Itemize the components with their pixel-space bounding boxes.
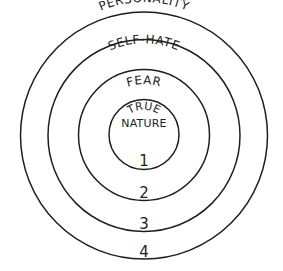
number-2: 2 — [139, 184, 149, 202]
label-nature: NATURE — [121, 117, 166, 130]
number-3: 3 — [139, 215, 149, 233]
ring-3-self-hate — [48, 40, 240, 232]
number-4: 4 — [139, 243, 149, 261]
label-fear: FEAR — [125, 73, 163, 89]
number-1: 1 — [139, 152, 149, 170]
label-self-hate: SELF-HATE — [106, 32, 182, 53]
concentric-layers-diagram: PERSONALITY SELF-HATE FEAR TRUE NATURE 1… — [0, 0, 283, 271]
ring-2-fear — [79, 70, 210, 201]
